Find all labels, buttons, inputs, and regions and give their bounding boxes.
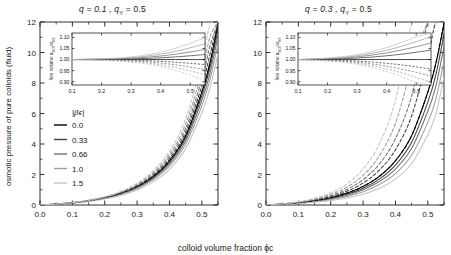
x-axis-label: colloid volume fraction ϕc [0,243,451,253]
inset-x-tick-label: 0.2 [98,88,105,94]
x-tick-label: 0.2 [325,210,337,219]
x-tick-label: 0.0 [260,210,272,219]
y-tick-label: 6 [258,110,263,119]
x-tick-label: 0.1 [67,210,79,219]
y-axis-label: osmotic pressure of pure colloids (fluid… [4,37,13,197]
x-tick-label: 0.2 [99,210,111,219]
x-tick-label: 0.3 [132,210,144,219]
y-tick-label: 4 [32,140,37,149]
x-tick-label: 0.4 [164,210,176,219]
inset-y-tick-label: 1.00 [59,56,69,62]
y-tick-label: 12 [253,18,262,27]
inset-x-tick-label: 0.1 [68,88,75,94]
inset-y-tick-label: 0.90 [285,79,295,85]
inset-x-tick-label: 0.3 [354,88,361,94]
y-tick-label: 12 [27,18,36,27]
y-tick-label: 0 [32,201,37,210]
x-tick-label: 0.3 [358,210,370,219]
y-tick-label: 6 [32,110,37,119]
x-tick-label: 0.5 [422,210,434,219]
x-tick-label: 0.1 [293,210,305,219]
inset-x-tick-label: 0.3 [128,88,135,94]
inset-y-tick-label: 1.05 [59,45,69,51]
panel-right: q = 0.3 , qY = 0.5 0246810120.00.10.20.3… [226,0,451,255]
panel-right-plot: 0246810120.00.10.20.30.40.50.900.951.001… [226,0,451,255]
panel-left: q = 0.1 , qY = 0.5 0246810120.00.10.20.3… [0,0,225,255]
inset-y-axis-label: free volume αSCT/αHS [275,37,282,81]
x-tick-label: 0.5 [196,210,208,219]
y-tick-label: 2 [258,171,263,180]
inset-x-tick-label: 0.4 [157,88,164,94]
legend-label-1.5: 1.5 [72,179,84,188]
inset-y-tick-label: 1.00 [285,56,295,62]
y-tick-label: 4 [258,140,263,149]
inset-x-tick-label: 0.1 [294,88,301,94]
legend-label-0.66: 0.66 [72,150,88,159]
inset-y-axis-label: free volume αSCT/αHS [49,37,56,81]
inset-y-tick-label: 1.10 [285,34,295,40]
x-tick-label: 0.0 [34,210,46,219]
inset-x-tick-label: 0.2 [324,88,331,94]
inset-y-tick-label: 0.90 [59,79,69,85]
y-tick-label: 0 [258,201,263,210]
inset-x-tick-label: 0.5 [187,88,194,94]
y-tick-label: 8 [32,79,37,88]
inset-y-tick-label: 0.95 [59,68,69,74]
legend-header: |βϵ| [72,108,84,117]
legend-label-1.0: 1.0 [72,165,84,174]
inset-y-tick-label: 1.10 [59,34,69,40]
inset-x-tick-label: 0.4 [383,88,390,94]
y-tick-label: 8 [258,79,263,88]
panel-left-plot: 0246810120.00.10.20.30.40.5|βϵ|0.00.330.… [0,0,225,255]
y-tick-label: 10 [27,49,36,58]
y-tick-label: 2 [32,171,37,180]
figure-root: q = 0.1 , qY = 0.5 0246810120.00.10.20.3… [0,0,451,255]
legend-label-0.0: 0.0 [72,121,84,130]
inset-y-tick-label: 1.05 [285,45,295,51]
inset-x-tick-label: 0.5 [413,88,420,94]
inset-y-tick-label: 0.95 [285,68,295,74]
x-tick-label: 0.4 [390,210,402,219]
legend-label-0.33: 0.33 [72,136,88,145]
y-tick-label: 10 [253,49,262,58]
